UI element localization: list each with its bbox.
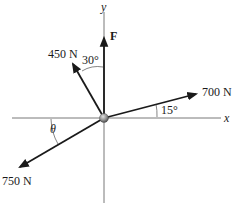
angle-arc-30 (82, 67, 103, 71)
angle-30-label: 30° (82, 53, 99, 67)
force-450N-arrow (73, 64, 104, 118)
x-axis-label: x (223, 111, 230, 125)
angle-15-label: 15° (161, 103, 178, 117)
force-750N-label: 750 N (2, 174, 32, 188)
force-700N-label: 700 N (202, 85, 232, 99)
force-700N-arrow (104, 94, 196, 118)
force-750N-arrow (20, 118, 104, 167)
force-diagram: x y F 450 N 30° 700 N 15° 750 N θ (0, 0, 232, 220)
y-axis-label: y (100, 0, 107, 14)
angle-arc-15 (156, 104, 157, 117)
force-F-label: F (110, 29, 117, 43)
angle-theta-label: θ (50, 122, 56, 136)
force-450N-label: 450 N (48, 47, 78, 61)
particle (100, 114, 109, 123)
